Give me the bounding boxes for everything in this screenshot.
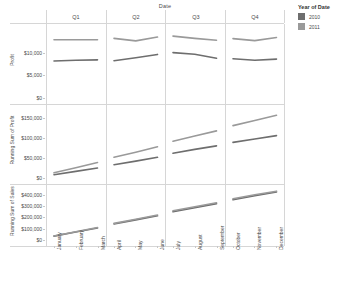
line-series-2011 xyxy=(173,131,217,141)
line-series-2010 xyxy=(173,53,217,59)
y-tick-mark xyxy=(43,98,45,99)
panel-running-sum-of-profit-q3 xyxy=(165,104,225,184)
y-tick-label: $10,000 xyxy=(12,50,42,56)
panel-running-sum-of-profit-q1 xyxy=(46,104,106,184)
column-header-q4: Q4 xyxy=(226,12,284,22)
panel-grid-right-edge xyxy=(284,24,285,246)
y-tick-label: $300,000 xyxy=(12,203,42,209)
x-tick-label: February xyxy=(78,230,84,250)
panel-profit-q1 xyxy=(46,24,106,104)
x-tick-label: November xyxy=(256,227,262,250)
x-tick-label: May xyxy=(137,241,143,250)
y-tick-mark xyxy=(43,229,45,230)
y-tick-label: $200,000 xyxy=(12,214,42,220)
y-tick-label: $5,000 xyxy=(12,72,42,78)
x-tick-label: August xyxy=(197,234,203,250)
x-tick-label: December xyxy=(278,227,284,250)
x-tick-label: June xyxy=(159,239,165,250)
line-series-2010 xyxy=(233,59,277,61)
legend-swatch-2011 xyxy=(298,23,305,30)
x-tick-mark xyxy=(157,246,158,248)
legend-title: Year of Date xyxy=(298,4,344,10)
y-tick-label: $150,000 xyxy=(12,115,42,121)
line-series-2011 xyxy=(173,203,217,211)
x-tick-mark xyxy=(195,246,196,248)
line-series-2011 xyxy=(114,147,158,157)
y-tick-mark xyxy=(43,240,45,241)
legend-swatch-2010 xyxy=(298,13,305,20)
y-tick-mark xyxy=(43,75,45,76)
header-separator xyxy=(225,10,226,23)
panel-running-sum-of-sales-q2 xyxy=(106,184,166,246)
y-tick-label: $100,000 xyxy=(12,135,42,141)
x-tick-mark xyxy=(114,246,115,248)
y-axis-title-row1: Profit xyxy=(9,22,15,98)
panel-profit-q3 xyxy=(165,24,225,104)
panel-running-sum-of-sales-q3 xyxy=(165,184,225,246)
x-tick-label: January xyxy=(56,232,62,250)
x-tick-mark xyxy=(76,246,77,248)
y-tick-mark xyxy=(43,158,45,159)
line-series-2011 xyxy=(114,37,158,41)
line-series-2011 xyxy=(233,37,277,40)
line-series-2010 xyxy=(173,146,217,153)
legend: Year of Date 2010 2011 xyxy=(298,4,344,33)
y-tick-mark xyxy=(43,178,45,179)
panel-running-sum-of-sales-q4 xyxy=(225,184,285,246)
line-series-2011 xyxy=(173,36,217,40)
panel-running-sum-of-profit-q2 xyxy=(106,104,166,184)
y-tick-mark xyxy=(43,118,45,119)
y-tick-label: $0 xyxy=(12,237,42,243)
panel-profit-q2 xyxy=(106,24,166,104)
column-header-q1: Q1 xyxy=(46,12,106,22)
line-series-2010 xyxy=(233,192,277,200)
line-series-2010 xyxy=(114,54,158,60)
x-tick-mark xyxy=(54,246,55,248)
x-tick-mark xyxy=(98,246,99,248)
x-tick-mark xyxy=(233,246,234,248)
column-header-q3: Q3 xyxy=(166,12,226,22)
header-separator xyxy=(106,10,107,23)
line-series-2011 xyxy=(233,115,277,125)
chart-container: Date Q1 Q2 Q3 Q4 Profit$10,000$5,000$0Ru… xyxy=(0,0,345,288)
header-separator xyxy=(284,10,285,23)
legend-label-2011: 2011 xyxy=(309,24,320,30)
x-tick-label: April xyxy=(116,240,122,250)
y-tick-label: $0 xyxy=(12,95,42,101)
panel-profit-q4 xyxy=(225,24,285,104)
x-tick-label: March xyxy=(100,236,106,250)
x-tick-label: July xyxy=(175,241,181,250)
y-tick-label: $50,000 xyxy=(12,155,42,161)
x-tick-mark xyxy=(276,246,277,248)
y-tick-mark xyxy=(43,206,45,207)
x-tick-label: October xyxy=(235,232,241,250)
y-tick-label: $400,000 xyxy=(12,192,42,198)
header-separator xyxy=(165,10,166,23)
y-tick-label: $0 xyxy=(12,175,42,181)
row-divider xyxy=(10,246,284,247)
line-series-2010 xyxy=(173,204,217,212)
legend-item-2011[interactable]: 2011 xyxy=(298,23,344,30)
y-tick-mark xyxy=(43,53,45,54)
line-series-2010 xyxy=(233,136,277,143)
line-series-2011 xyxy=(114,215,158,223)
line-series-2010 xyxy=(54,60,98,61)
x-tick-label: September xyxy=(219,226,225,250)
y-tick-mark xyxy=(43,217,45,218)
line-series-2010 xyxy=(114,157,158,164)
panel-running-sum-of-sales-q1 xyxy=(46,184,106,246)
legend-item-2010[interactable]: 2010 xyxy=(298,13,344,20)
panel-running-sum-of-profit-q4 xyxy=(225,104,285,184)
y-tick-mark xyxy=(43,138,45,139)
legend-label-2010: 2010 xyxy=(309,14,320,20)
column-field-title: Date xyxy=(46,3,284,9)
y-tick-mark xyxy=(43,195,45,196)
x-tick-mark xyxy=(173,246,174,248)
header-separator xyxy=(46,10,47,23)
x-tick-mark xyxy=(217,246,218,248)
y-tick-label: $100,000 xyxy=(12,226,42,232)
column-header-q2: Q2 xyxy=(106,12,166,22)
line-series-2011 xyxy=(233,191,277,199)
